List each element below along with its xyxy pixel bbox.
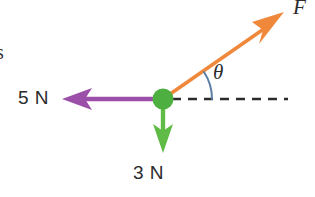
origin-dot <box>153 89 174 110</box>
resultant-force-arrowhead <box>252 12 284 44</box>
resultant-force-label: F <box>293 0 306 18</box>
angle-theta-label: θ <box>213 62 223 83</box>
force-5n-label: 5 N <box>18 88 49 107</box>
force-3n-label: 3 N <box>133 163 164 182</box>
angle-arc <box>204 72 212 99</box>
force-vector-diagram: 5 N 3 N F θ s <box>0 0 315 197</box>
cropped-edge-text-fragment: s <box>0 42 4 62</box>
